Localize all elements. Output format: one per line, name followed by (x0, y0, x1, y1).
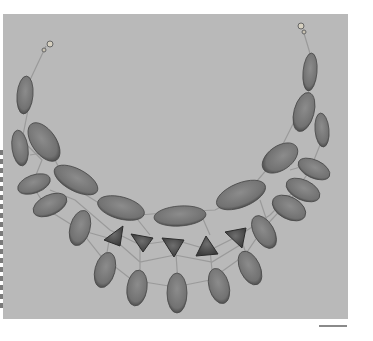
necklace-photo (3, 14, 348, 319)
triangle-stones (104, 226, 246, 257)
decorative-dash (319, 325, 347, 327)
necklace-illustration (3, 14, 348, 319)
clasp-right (298, 23, 306, 34)
oval-stones (10, 52, 334, 313)
clasp-left (42, 41, 53, 52)
